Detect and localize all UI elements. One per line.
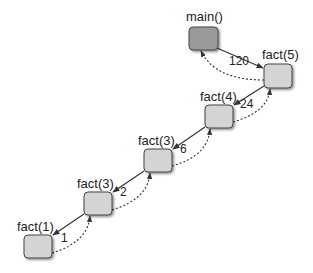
label-fact3-a: fact(3) bbox=[138, 134, 175, 147]
label-fact4: fact(4) bbox=[200, 90, 237, 103]
return-value-2: 2 bbox=[120, 186, 127, 198]
frame-fact3-b bbox=[84, 192, 112, 215]
call-arrow-f3a-f3b bbox=[113, 171, 144, 192]
frame-fact3-a bbox=[144, 149, 172, 172]
call-arrow-f4-f3a bbox=[173, 127, 205, 149]
call-arrow-f3b-f1 bbox=[53, 214, 84, 235]
label-fact3-b: fact(3) bbox=[77, 177, 114, 190]
return-arrow-f1-f3b bbox=[52, 216, 90, 253]
frame-main bbox=[189, 27, 218, 50]
return-value-120: 120 bbox=[229, 55, 249, 67]
return-value-1: 1 bbox=[61, 232, 68, 244]
frame-fact1 bbox=[24, 235, 52, 258]
frame-fact4 bbox=[205, 105, 233, 128]
return-arrow-f3b-f3a bbox=[112, 173, 150, 210]
label-fact5: fact(5) bbox=[262, 48, 299, 61]
label-fact1: fact(1) bbox=[17, 220, 54, 233]
label-main: main() bbox=[186, 10, 223, 23]
return-arrow-f3a-f4 bbox=[172, 129, 210, 166]
frame-fact5 bbox=[264, 64, 292, 88]
return-value-24: 24 bbox=[240, 98, 253, 110]
return-value-6: 6 bbox=[180, 143, 187, 155]
